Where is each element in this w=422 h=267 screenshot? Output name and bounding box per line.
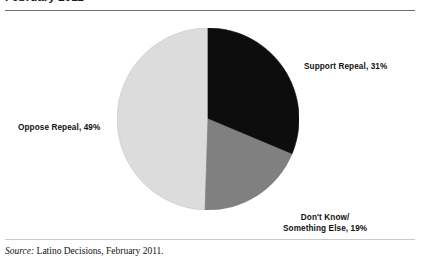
figure-panel: February 2011 Support Repeal, 31% Oppose…	[0, 0, 422, 267]
source-text: Latino Decisions, February 2011.	[37, 246, 164, 256]
page-title: February 2011	[5, 0, 84, 3]
pie-label-dont-know-line2: Something Else, 19%	[283, 223, 367, 234]
pie-label-dont-know: Don't Know/ Something Else, 19%	[283, 212, 367, 234]
source-note: Source: Latino Decisions, February 2011.	[5, 246, 164, 256]
source-prefix: Source:	[5, 246, 34, 256]
source-divider	[5, 239, 415, 240]
pie-label-support: Support Repeal, 31%	[304, 61, 387, 72]
title-divider	[5, 10, 415, 11]
pie-label-dont-know-line1: Don't Know/	[283, 212, 367, 223]
pie-label-oppose: Oppose Repeal, 49%	[18, 122, 100, 133]
pie-slice-oppose[interactable]	[117, 28, 208, 210]
pie-chart	[117, 28, 299, 210]
pie-chart-svg	[117, 28, 299, 210]
